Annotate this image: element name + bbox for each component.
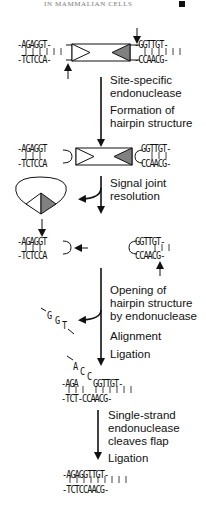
row4-bottom-strand: -TCT-CCAACG-	[61, 392, 111, 404]
signal-joint-circle	[16, 177, 67, 214]
row3-left-bottom-strand: -TCTCCA	[17, 249, 46, 261]
step3-label-line4: Alignment	[110, 330, 161, 343]
row2-right-bottom-strand: CCAACG-	[141, 157, 170, 169]
step1-label-line1: Site-specific	[110, 74, 172, 87]
flap-ggt-base-2: G	[55, 314, 59, 326]
row3-right-top-strand: GGTTGT-	[135, 235, 164, 247]
row2-left-bottom-strand: -TCTCCA	[17, 157, 46, 169]
row3-right-bottom-strand: CCAACG-	[135, 249, 164, 261]
row1-right-bottom-strand: -CCAACG-	[134, 53, 168, 65]
signal-joint-branch-arrow	[82, 188, 101, 199]
hairpin-row2	[63, 148, 143, 165]
step3-label-line5: Ligation	[110, 348, 150, 361]
step1-label-line3: Formation of	[110, 104, 175, 117]
coding-hairpin-left	[63, 241, 71, 254]
flap-acc-base-2: C	[80, 365, 84, 377]
opening-branch-arrow	[82, 310, 101, 320]
flap-ggt-base-1: G	[47, 309, 51, 321]
step2-label-line2: resolution	[110, 190, 160, 203]
row3-left-top-strand: -AGAGGT	[17, 235, 46, 247]
flap-ggt-base-3: T	[62, 319, 66, 331]
step3-label-line3: by endonuclease	[110, 310, 197, 323]
row2-left-top-strand: -AGAGGT	[17, 142, 46, 154]
flap-acc-base-3: C	[87, 370, 91, 382]
final-top-strand: -AGAGGTTGT-	[62, 468, 108, 480]
step2-label-line1: Signal joint	[110, 177, 166, 190]
row4-top-right-strand: GGTTGT-	[93, 377, 122, 389]
row4-top-left-strand: -AGA	[61, 377, 78, 389]
step4-label-line2: endonuclease	[108, 422, 180, 435]
row1-right-top-strand: -GGTTGT-	[134, 38, 168, 50]
step4-label-line1: Single-strand	[108, 409, 176, 422]
row1-left-top-strand: -AGAGGT-	[17, 38, 51, 50]
row2-right-top-strand: GGTTGT-	[141, 142, 170, 154]
step1-label-line4: hairpin structure	[110, 117, 192, 130]
step3-label-line1: Opening of	[110, 284, 166, 297]
step3-label-line2: hairpin structure	[110, 297, 192, 310]
step1-label-line2: endonuclease	[110, 87, 182, 100]
final-bottom-strand: -TCTCCAACG-	[62, 483, 108, 495]
step4-label-line3: cleaves flap	[108, 435, 169, 448]
step4-label-line4: Ligation	[108, 452, 148, 465]
flap-acc-base-1: A	[73, 360, 77, 372]
rss-signal-box-row1	[66, 44, 140, 61]
row1-left-bottom-strand: -TCTCCA-	[17, 53, 51, 65]
